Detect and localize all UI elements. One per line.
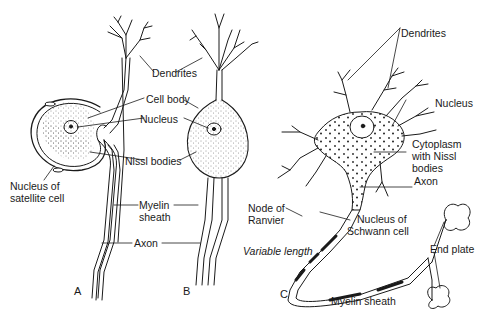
label-nucleus-satellite-line1: Nucleus of: [10, 180, 60, 192]
label-nucleus-ab: Nucleus: [140, 113, 178, 125]
label-axon-c: Axon: [414, 175, 438, 187]
label-myelin-sheath-ab-line1: Myelin: [139, 199, 169, 211]
label-end-plate: End plate: [430, 243, 474, 255]
label-cytoplasm-line3: bodies: [412, 162, 443, 174]
panel-label-a: A: [74, 285, 81, 297]
label-cytoplasm-line2: with Nissl: [412, 150, 456, 162]
label-myelin-sheath-c: Myelin sheath: [331, 295, 396, 307]
label-node-ranvier-line1: Node of: [248, 202, 285, 214]
label-node-ranvier-line2: Ranvier: [248, 214, 284, 226]
neuron-diagram: Dendrites Cell body Nucleus Nissl bodies…: [0, 0, 485, 313]
panel-label-b: B: [183, 285, 190, 297]
label-nucleus-satellite-line2: satellite cell: [10, 192, 64, 204]
label-dendrites-c: Dendrites: [401, 27, 446, 39]
label-nissl-bodies: Nissl bodies: [125, 155, 182, 167]
label-cell-body: Cell body: [146, 93, 190, 105]
label-myelin-sheath-ab-line2: sheath: [139, 211, 171, 223]
label-nucleus-c: Nucleus: [435, 97, 473, 109]
label-variable-length: Variable length: [243, 245, 313, 257]
panel-label-c: C: [280, 288, 288, 300]
label-schwann-line2: Schwann cell: [347, 225, 409, 237]
label-schwann-line1: Nucleus of: [357, 213, 407, 225]
label-cytoplasm-line1: Cytoplasm: [412, 138, 462, 150]
label-axon-ab: Axon: [134, 237, 158, 249]
label-dendrites-ab: Dendrites: [152, 67, 197, 79]
